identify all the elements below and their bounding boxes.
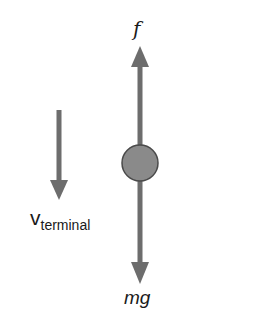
free-body-diagram	[0, 0, 260, 328]
upward-force-arrow	[131, 46, 149, 148]
weight-force-label: mg	[124, 287, 150, 309]
velocity-symbol: v	[30, 206, 41, 229]
velocity-subscript: terminal	[41, 217, 91, 233]
object-ball	[122, 145, 158, 181]
friction-force-label: f	[133, 17, 140, 41]
terminal-velocity-label: vterminal	[30, 206, 90, 230]
velocity-arrow	[50, 110, 68, 200]
downward-force-arrow	[131, 178, 149, 284]
